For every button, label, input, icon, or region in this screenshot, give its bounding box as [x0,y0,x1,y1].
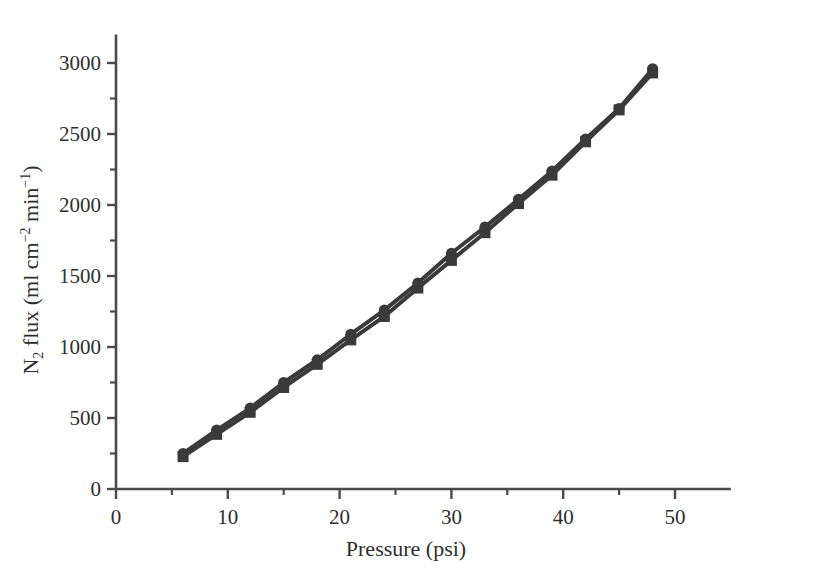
data-point-square-marker [614,104,625,115]
x-tick-label: 40 [553,505,574,529]
data-point-square-marker [580,136,591,147]
data-point-square-marker [211,429,222,440]
x-tick-label: 30 [441,505,462,529]
nitrogen-flux-line-chart: 05001000150020002500300001020304050 Pres… [0,0,819,579]
data-point-square-marker [513,198,524,209]
y-tick-label: 2000 [59,193,101,217]
data-point-square-marker [312,359,323,370]
y-tick-label: 3000 [59,51,101,75]
y-tick-label: 1500 [59,264,101,288]
data-point-square-marker [379,311,390,322]
data-point-square-marker [479,227,490,238]
x-tick-label: 0 [111,505,122,529]
y-title-mid-2: min [18,188,43,228]
y-title-mid: flux (ml cm [18,242,43,351]
y-title-exponent-2: −1 [18,173,33,188]
y-title-tail: ) [18,165,43,172]
data-point-square-marker [412,283,423,294]
x-tick-label: 50 [665,505,686,529]
data-point-square-marker [547,170,558,181]
y-axis-title: N2 flux (ml cm−2 min−1) [18,165,46,374]
data-point-square-marker [446,255,457,266]
y-tick-label: 500 [70,406,102,430]
y-title-lead: N [18,359,43,375]
x-tick-label: 20 [329,505,350,529]
x-tick-label: 10 [217,505,238,529]
y-tick-label: 1000 [59,335,101,359]
y-tick-label: 2500 [59,122,101,146]
y-axis-title-group: N2 flux (ml cm−2 min−1) [18,165,46,374]
data-point-square-marker [278,382,289,393]
data-point-square-marker [345,334,356,345]
data-point-square-marker [647,67,658,78]
y-title-exponent-1: −2 [18,227,33,242]
y-title-subscript: 2 [31,352,46,359]
data-point-square-marker [245,407,256,418]
chart-figure: 05001000150020002500300001020304050 Pres… [0,0,819,579]
y-tick-label: 0 [91,477,102,501]
data-point-square-marker [178,451,189,462]
x-axis-title: Pressure (psi) [346,536,466,561]
